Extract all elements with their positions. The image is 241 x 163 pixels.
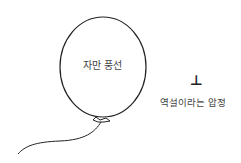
balloon-string [18,122,101,154]
thumbtack-label: 역설이라는 압정 [160,95,226,109]
balloon-diagram [0,0,241,163]
balloon-label: 자만 풍선 [83,57,122,72]
thumbtack-icon: ⊥ [190,72,203,88]
balloon-knot [93,117,110,122]
